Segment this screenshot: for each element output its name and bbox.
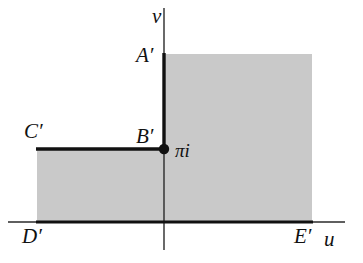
complex-plane-figure: v A′ B′ C′ πi D′ E′ u — [0, 0, 363, 263]
point-label-pi-i: πi — [175, 141, 190, 160]
point-label-e-prime: E′ — [294, 226, 311, 247]
shaded-region-upper-block — [164, 54, 312, 149]
point-label-d-prime: D′ — [22, 226, 42, 247]
axis-label-v: v — [152, 6, 161, 27]
pi-i-point-marker — [159, 144, 169, 154]
point-label-a-prime: A′ — [136, 45, 153, 66]
axis-label-u: u — [324, 229, 335, 250]
shaded-region-group — [37, 54, 312, 222]
point-label-c-prime: C′ — [24, 121, 43, 142]
point-label-b-prime: B′ — [136, 126, 153, 147]
